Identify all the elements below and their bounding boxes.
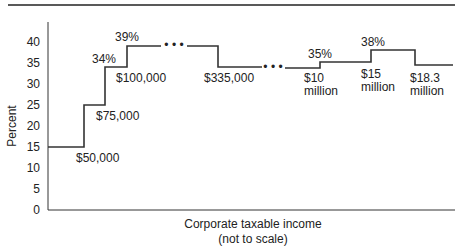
y-tick: 25: [27, 98, 41, 112]
rate-label-34: 34%: [92, 52, 116, 66]
income-label-18-3m: $18.3: [410, 71, 440, 85]
rate-label-35: 35%: [308, 47, 332, 61]
x-axis-note: (not to scale): [218, 232, 287, 246]
y-tick: 5: [33, 182, 40, 196]
y-tick: 0: [33, 203, 40, 217]
y-axis-label: Percent: [5, 105, 19, 147]
income-label-15m-unit: million: [361, 80, 395, 94]
y-tick: 20: [27, 119, 41, 133]
ellipsis-gap: • • •: [263, 60, 282, 74]
y-tick-labels: 0 5 10 15 20 25 30 35 40: [27, 35, 41, 217]
y-tick: 30: [27, 77, 41, 91]
ellipsis-gap: • • •: [164, 38, 183, 52]
income-label-15m: $15: [361, 67, 381, 81]
income-label-50k: $50,000: [76, 151, 120, 165]
income-label-10m-unit: million: [304, 84, 338, 98]
income-label-18-3m-unit: million: [410, 84, 444, 98]
x-axis-label: Corporate taxable income: [184, 217, 322, 231]
tax-rate-step-chart: 0 5 10 15 20 25 30 35 40 Percent • • • •…: [0, 0, 464, 252]
rate-label-39: 39%: [115, 30, 139, 44]
income-label-335k: $335,000: [204, 71, 254, 85]
y-tick: 10: [27, 161, 41, 175]
tax-rate-step-line: [187, 46, 262, 67]
rate-label-38: 38%: [361, 35, 385, 49]
y-tick: 35: [27, 56, 41, 70]
income-label-75k: $75,000: [96, 109, 140, 123]
income-label-10m: $10: [304, 71, 324, 85]
y-tick: 15: [27, 140, 41, 154]
income-label-100k: $100,000: [116, 71, 166, 85]
y-tick: 40: [27, 35, 41, 49]
